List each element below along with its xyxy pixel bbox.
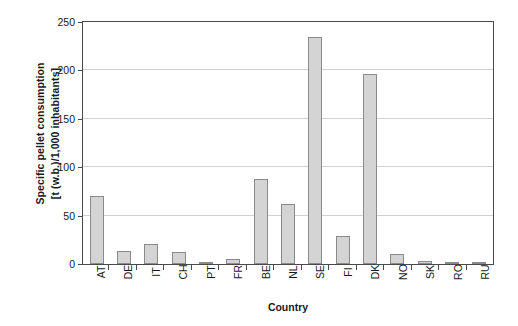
bar-ru (472, 262, 486, 264)
x-label-slot: AT (82, 270, 109, 300)
bar-it (144, 244, 158, 264)
bar-slot (411, 22, 438, 264)
bar-slot (165, 22, 192, 264)
bar-se (308, 37, 322, 264)
x-label-slot: BE (247, 270, 274, 300)
bar-series (83, 22, 493, 264)
bar-slot (466, 22, 493, 264)
bar-slot (329, 22, 356, 264)
bar-slot (83, 22, 110, 264)
x-label-slot: RO (439, 270, 466, 300)
bar-slot (110, 22, 137, 264)
bar-slot (220, 22, 247, 264)
bar-slot (138, 22, 165, 264)
bar-dk (363, 74, 377, 264)
bar-no (390, 254, 404, 264)
x-tick-label-ru: RU (480, 264, 491, 279)
bar-ro (445, 262, 459, 264)
x-label-slot: NL (274, 270, 301, 300)
bar-sk (418, 261, 432, 264)
x-axis-title: Country (82, 301, 494, 313)
y-tick-label: 200 (57, 65, 75, 76)
x-label-slot: DK (357, 270, 384, 300)
x-label-slot: NO (384, 270, 411, 300)
x-label-slot: CH (164, 270, 191, 300)
x-axis-labels: ATDEITCHPTFRBENLSEFIDKNOSKRORU (82, 270, 494, 300)
y-tick-label: 150 (57, 113, 75, 124)
x-tick-label-dk: DK (370, 265, 381, 280)
x-label-slot: IT (137, 270, 164, 300)
x-label-slot: PT (192, 270, 219, 300)
x-tick-label-sk: SK (425, 265, 436, 279)
chart-figure: Specific pellet consumption [t (w.b.)/1,… (0, 0, 518, 326)
bar-fi (336, 236, 350, 264)
x-label-slot: SE (302, 270, 329, 300)
x-label-slot: SK (412, 270, 439, 300)
x-label-slot: FR (219, 270, 246, 300)
x-tick-label-fr: FR (233, 265, 244, 279)
y-tick-label: 0 (69, 259, 75, 270)
x-label-slot: FI (329, 270, 356, 300)
bar-nl (281, 204, 295, 264)
x-label-slot: RU (467, 270, 494, 300)
x-tick-label-ch: CH (178, 264, 189, 279)
x-tick-label-se: SE (315, 265, 326, 279)
bar-at (90, 196, 104, 264)
bar-be (254, 179, 268, 264)
bar-slot (356, 22, 383, 264)
x-tick-label-nl: NL (288, 265, 299, 278)
x-tick-label-pt: PT (206, 265, 217, 278)
bar-de (117, 251, 131, 264)
y-tick-label: 100 (57, 162, 75, 173)
y-axis-title-line1: Specific pellet consumption (33, 62, 47, 204)
bar-slot (384, 22, 411, 264)
x-tick-label-no: NO (398, 264, 409, 280)
bar-slot (438, 22, 465, 264)
y-axis-title: Specific pellet consumption [t (w.b.)/1,… (24, 1, 70, 266)
bar-slot (192, 22, 219, 264)
x-tick-label-at: AT (96, 266, 107, 279)
x-tick-label-be: BE (261, 265, 272, 279)
y-tick-label: 250 (57, 17, 75, 28)
bar-slot (274, 22, 301, 264)
x-tick-label-ro: RO (453, 264, 464, 280)
bar-slot (302, 22, 329, 264)
bar-ch (172, 252, 186, 264)
x-tick-label-fi: FI (343, 267, 354, 276)
x-tick-label-it: IT (151, 267, 162, 276)
bar-slot (247, 22, 274, 264)
y-tick-label: 50 (63, 210, 75, 221)
bar-fr (226, 259, 240, 264)
x-tick-label-de: DE (123, 265, 134, 280)
x-label-slot: DE (109, 270, 136, 300)
y-axis-title-line2: [t (w.b.)/1,000 inhabitants] (48, 68, 62, 199)
bar-pt (199, 262, 213, 264)
plot-area: 050100150200250 (82, 21, 494, 265)
